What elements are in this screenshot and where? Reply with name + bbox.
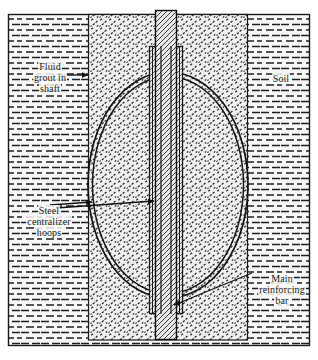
main-reinforcing-bar — [153, 11, 180, 340]
drilled-shaft-diagram: Fluid grout in shaft Soil Steel centrali… — [0, 0, 318, 360]
label-soil-text: Soil — [272, 73, 291, 84]
label-steel-hoops-text: Steel centralizer hoops — [26, 205, 71, 238]
label-fluid-grout-in-shaft: Fluid grout in shaft — [14, 50, 86, 94]
label-fluid-grout-text: Fluid grout in shaft — [33, 61, 67, 94]
label-main-reinforcing-bar: Main reinforcing bar — [252, 262, 312, 306]
label-steel-centralizer-hoops: Steel centralizer hoops — [8, 194, 90, 238]
label-main-bar-text: Main reinforcing bar — [258, 273, 306, 306]
label-soil: Soil — [258, 62, 304, 84]
